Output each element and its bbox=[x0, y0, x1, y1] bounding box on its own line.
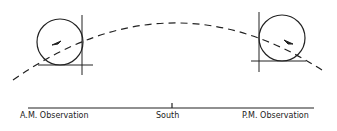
am-observation-label: A.M. Observation bbox=[20, 111, 89, 120]
pm-arrow-icon bbox=[284, 40, 293, 44]
pm-sun-disc bbox=[251, 12, 306, 72]
pm-observation-label: P.M. Observation bbox=[242, 111, 309, 120]
am-sun-disc bbox=[37, 15, 93, 75]
am-arrow-icon bbox=[52, 41, 61, 45]
south-label: South bbox=[156, 111, 179, 120]
sun-path-arc bbox=[13, 23, 325, 80]
